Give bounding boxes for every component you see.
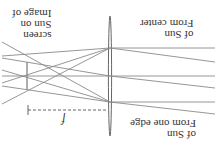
label-center-line2: of Sun bbox=[140, 29, 193, 40]
label-focal-length: f bbox=[62, 114, 65, 125]
label-from-edge: of Sun From one edge bbox=[130, 118, 196, 140]
label-image-line2: Sun on bbox=[12, 19, 51, 30]
label-edge-line2: of Sun bbox=[130, 129, 196, 140]
label-image-line1: Image of bbox=[12, 8, 51, 19]
label-image-of-sun: screen Sun on Image of bbox=[12, 8, 51, 41]
label-center-line1: From center bbox=[140, 18, 193, 29]
label-edge-line1: From one edge bbox=[130, 118, 196, 129]
label-image-line3: screen bbox=[12, 30, 51, 41]
label-from-center: of Sun From center bbox=[140, 18, 193, 40]
